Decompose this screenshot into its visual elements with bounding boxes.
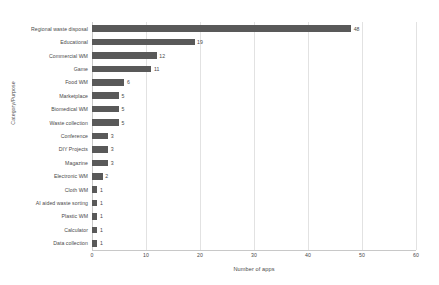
bar-row: Educational19 — [92, 35, 416, 48]
category-label: Commercial WM — [49, 53, 88, 59]
bar — [92, 25, 351, 32]
category-label: Educational — [60, 39, 88, 45]
bar — [92, 160, 108, 167]
bar — [92, 79, 124, 86]
bar-value-label: 5 — [122, 120, 125, 126]
bar — [92, 119, 119, 126]
x-axis-title: Number of apps — [92, 266, 416, 272]
category-label: Game — [74, 66, 88, 72]
bar-value-label: 3 — [111, 133, 114, 139]
bar-value-label: 5 — [122, 93, 125, 99]
bar — [92, 200, 97, 207]
bar-value-label: 1 — [100, 213, 103, 219]
bar-value-label: 1 — [100, 240, 103, 246]
bar-value-label: 3 — [111, 160, 114, 166]
bar — [92, 39, 195, 46]
x-tick-label: 20 — [197, 252, 203, 258]
bar — [92, 92, 119, 99]
bar-value-label: 5 — [122, 106, 125, 112]
x-tick-label: 10 — [143, 252, 149, 258]
bar-value-label: 11 — [154, 66, 159, 72]
category-label: Biomedical WM — [51, 106, 88, 112]
x-axis-ticks: 0102030405060 — [92, 252, 416, 262]
bar-value-label: 12 — [159, 53, 165, 59]
category-label: Regional waste disposal — [31, 26, 88, 32]
bar-chart: Category/Purpose Regional waste disposal… — [0, 0, 439, 285]
gridline-60 — [416, 22, 417, 250]
bar-row: AI aided waste sorting1 — [92, 196, 416, 209]
x-tick-label: 60 — [413, 252, 419, 258]
bar-value-label: 1 — [100, 227, 103, 233]
bar — [92, 52, 157, 59]
bar-value-label: 19 — [197, 39, 203, 45]
bar-value-label: 48 — [354, 26, 360, 32]
bar — [92, 186, 97, 193]
category-label: Waste collection — [50, 120, 88, 126]
bar-row: Marketplace5 — [92, 89, 416, 102]
x-tick-label: 40 — [305, 252, 311, 258]
bar-value-label: 1 — [100, 187, 103, 193]
bar-row: Cloth WM1 — [92, 183, 416, 196]
bar-row: Plastic WM1 — [92, 210, 416, 223]
category-label: Cloth WM — [65, 187, 88, 193]
bar-value-label: 3 — [111, 146, 114, 152]
x-tick-label: 30 — [251, 252, 257, 258]
bar-row: Calculator1 — [92, 223, 416, 236]
category-label: Calculator — [64, 227, 88, 233]
x-tick-label: 0 — [91, 252, 94, 258]
bar-rows: Regional waste disposal48Educational19Co… — [92, 22, 416, 250]
bar-row: Food WM6 — [92, 76, 416, 89]
bar — [92, 106, 119, 113]
bar — [92, 66, 151, 73]
bar-row: Magazine3 — [92, 156, 416, 169]
bar-row: Data collection1 — [92, 237, 416, 250]
category-label: Magazine — [65, 160, 88, 166]
bar-row: Waste collection5 — [92, 116, 416, 129]
bar-row: Game11 — [92, 62, 416, 75]
bar — [92, 227, 97, 234]
bar — [92, 240, 97, 247]
category-label: Marketplace — [59, 93, 88, 99]
x-tick-label: 50 — [359, 252, 365, 258]
bar — [92, 173, 103, 180]
bar-row: Commercial WM12 — [92, 49, 416, 62]
bar-row: DIY Projects3 — [92, 143, 416, 156]
bar-row: Conference3 — [92, 129, 416, 142]
category-label: Electronic WM — [54, 173, 88, 179]
plot-area: Regional waste disposal48Educational19Co… — [92, 22, 416, 250]
category-label: Plastic WM — [62, 213, 88, 219]
bar-value-label: 2 — [105, 173, 108, 179]
bar — [92, 213, 97, 220]
x-axis-line — [92, 250, 416, 251]
bar-value-label: 1 — [100, 200, 103, 206]
category-label: Food WM — [65, 79, 88, 85]
bar-row: Biomedical WM5 — [92, 102, 416, 115]
category-label: DIY Projects — [59, 146, 88, 152]
bar-row: Electronic WM2 — [92, 170, 416, 183]
y-axis-title: Category/Purpose — [10, 53, 16, 153]
bar — [92, 146, 108, 153]
bar — [92, 133, 108, 140]
category-label: AI aided waste sorting — [36, 200, 88, 206]
category-label: Conference — [61, 133, 88, 139]
bar-value-label: 6 — [127, 79, 130, 85]
bar-row: Regional waste disposal48 — [92, 22, 416, 35]
category-label: Data collection — [53, 240, 88, 246]
